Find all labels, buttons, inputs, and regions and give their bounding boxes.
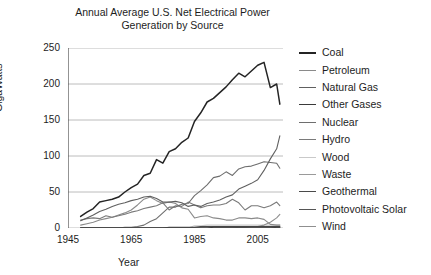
legend-swatch-icon: [299, 87, 316, 88]
legend-swatch-icon: [299, 52, 316, 54]
legend-label: Wind: [322, 221, 346, 232]
y-tick-label: 150: [30, 114, 60, 125]
line-chart-svg: [68, 48, 283, 228]
chart-legend: CoalPetroleumNatural GasOther GasesNucle…: [299, 44, 407, 235]
chart-title-line-1: Annual Average U.S. Net Electrical Power: [55, 6, 290, 19]
legend-item-wood[interactable]: Wood: [299, 148, 407, 165]
legend-label: Petroleum: [322, 65, 370, 76]
legend-swatch-icon: [299, 191, 316, 192]
y-tick-label: 250: [30, 42, 60, 53]
y-axis-label: GigaWatts: [0, 63, 4, 112]
legend-swatch-icon: [299, 104, 316, 105]
x-tick-label: 1965: [111, 234, 151, 245]
chart-figure: Annual Average U.S. Net Electrical Power…: [0, 0, 431, 275]
legend-swatch-icon: [299, 174, 316, 175]
y-tick-label: 0: [30, 222, 60, 233]
legend-label: Wood: [322, 152, 349, 163]
legend-item-natural-gas[interactable]: Natural Gas: [299, 79, 407, 96]
legend-item-waste[interactable]: Waste: [299, 166, 407, 183]
legend-label: Natural Gas: [322, 82, 378, 93]
legend-swatch-icon: [299, 209, 316, 210]
legend-swatch-icon: [299, 226, 316, 227]
legend-item-nuclear[interactable]: Nuclear: [299, 114, 407, 131]
legend-item-other-gases[interactable]: Other Gases: [299, 96, 407, 113]
x-tick-label: 1945: [48, 234, 88, 245]
series-line-natural-gas: [81, 136, 280, 221]
y-tick-label: 50: [30, 186, 60, 197]
legend-item-petroleum[interactable]: Petroleum: [299, 61, 407, 78]
chart-title: Annual Average U.S. Net Electrical Power…: [55, 6, 290, 32]
legend-label: Photovoltaic Solar: [322, 204, 407, 215]
x-axis-label: Year: [118, 256, 139, 268]
legend-swatch-icon: [299, 70, 316, 71]
series-line-petroleum: [81, 197, 280, 225]
legend-label: Nuclear: [322, 117, 358, 128]
y-tick-label: 100: [30, 150, 60, 161]
legend-swatch-icon: [299, 157, 316, 158]
legend-item-geothermal[interactable]: Geothermal: [299, 183, 407, 200]
chart-title-line-2: Generation by Source: [55, 19, 290, 32]
x-tick-label: 2005: [238, 234, 278, 245]
legend-item-hydro[interactable]: Hydro: [299, 131, 407, 148]
legend-item-photovoltaic-solar[interactable]: Photovoltaic Solar: [299, 201, 407, 218]
plot-area: [68, 48, 283, 228]
x-tick-label: 1985: [174, 234, 214, 245]
legend-item-wind[interactable]: Wind: [299, 218, 407, 235]
legend-swatch-icon: [299, 122, 316, 123]
legend-label: Hydro: [322, 134, 350, 145]
legend-item-coal[interactable]: Coal: [299, 44, 407, 61]
series-line-coal: [81, 62, 280, 216]
y-tick-label: 200: [30, 78, 60, 89]
legend-label: Waste: [322, 169, 351, 180]
legend-label: Coal: [322, 47, 344, 58]
series-lines: [81, 62, 280, 228]
legend-label: Geothermal: [322, 186, 377, 197]
legend-swatch-icon: [299, 139, 316, 140]
legend-label: Other Gases: [322, 99, 382, 110]
